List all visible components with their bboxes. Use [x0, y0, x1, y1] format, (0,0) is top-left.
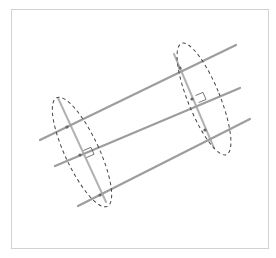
right-angle-icon — [196, 92, 207, 102]
parallel-lines-diagram — [0, 0, 276, 258]
parallel-line-1 — [40, 45, 236, 140]
transversal-lines — [58, 54, 214, 202]
parallel-line-2 — [55, 88, 240, 166]
parallel-line-3 — [78, 119, 250, 206]
